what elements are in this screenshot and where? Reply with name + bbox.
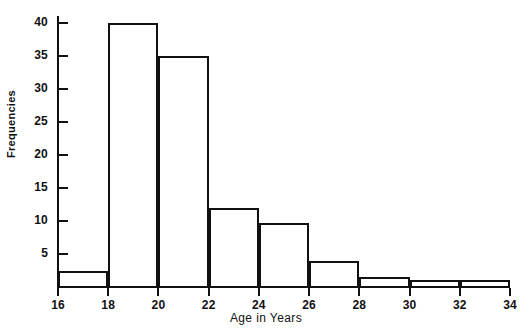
histogram-bar (108, 23, 158, 287)
y-tick-mark (59, 88, 68, 90)
x-tick-label: 22 (194, 298, 224, 312)
y-tick-mark (59, 220, 68, 222)
y-tick-label: 15 (22, 180, 48, 194)
x-tick-label: 26 (294, 298, 324, 312)
histogram-bar (259, 223, 309, 287)
y-tick-mark (59, 187, 68, 189)
y-tick-label: 25 (22, 114, 48, 128)
histogram-bar (209, 208, 259, 287)
y-tick-mark (59, 55, 68, 57)
x-tick-mark (157, 288, 159, 296)
histogram-chart: Frequencies Age in Years 510152025303540… (0, 0, 532, 331)
y-tick-mark (59, 154, 68, 156)
x-tick-label: 20 (143, 298, 173, 312)
x-tick-label: 24 (244, 298, 274, 312)
y-tick-label: 10 (22, 213, 48, 227)
x-tick-label: 32 (445, 298, 475, 312)
x-tick-mark (409, 288, 411, 296)
y-tick-label: 5 (22, 246, 48, 260)
y-tick-label: 40 (22, 15, 48, 29)
histogram-bar (58, 271, 108, 288)
x-tick-mark (107, 288, 109, 296)
y-tick-mark (59, 253, 68, 255)
x-tick-mark (258, 288, 260, 296)
histogram-bar (309, 261, 359, 287)
chart-title-fragment (210, 0, 410, 5)
histogram-bar (158, 56, 208, 287)
x-tick-mark (208, 288, 210, 296)
x-tick-label: 28 (344, 298, 374, 312)
x-tick-mark (358, 288, 360, 296)
x-tick-mark (459, 288, 461, 296)
y-tick-mark (59, 121, 68, 123)
x-tick-mark (308, 288, 310, 296)
histogram-bar (359, 277, 409, 287)
x-tick-label: 18 (93, 298, 123, 312)
y-tick-label: 35 (22, 48, 48, 62)
x-tick-label: 16 (43, 298, 73, 312)
histogram-bar (410, 280, 460, 287)
x-tick-mark (57, 288, 59, 296)
x-tick-label: 30 (395, 298, 425, 312)
y-tick-mark (59, 22, 68, 24)
x-tick-label: 34 (495, 298, 525, 312)
y-tick-label: 20 (22, 147, 48, 161)
y-axis-label: Frequencies (5, 69, 17, 179)
x-axis-label: Age in Years (0, 311, 532, 325)
x-tick-mark (509, 288, 511, 296)
histogram-bar (460, 280, 510, 287)
y-tick-label: 30 (22, 81, 48, 95)
